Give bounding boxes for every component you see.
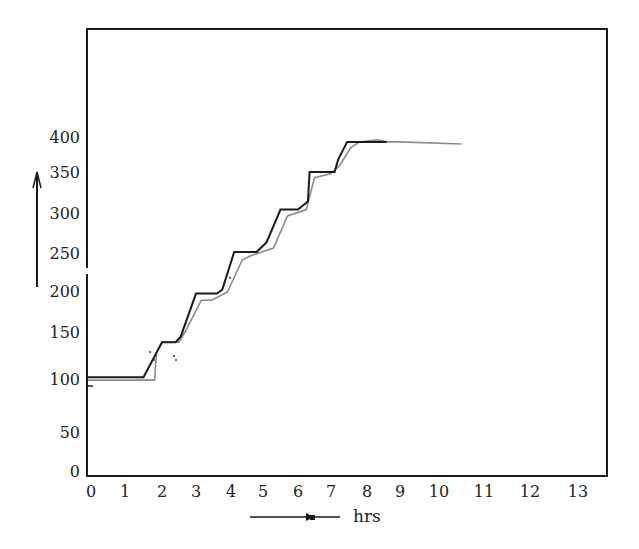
x-tick-label: 13 (568, 482, 588, 501)
series-line (88, 140, 462, 380)
x-tick-label: 0 (86, 482, 96, 501)
x-tick-label: 11 (474, 482, 494, 501)
y-tick-label: 50 (60, 423, 80, 442)
y-tick-label: 200 (49, 282, 80, 301)
y-tick-label: 400 (49, 128, 80, 147)
data-point-marker (153, 359, 155, 361)
y-tick-label: 150 (49, 323, 80, 342)
x-axis-arrow-icon (250, 513, 340, 521)
chart: 012345678910111213 400350300250200150100… (0, 0, 639, 549)
y-tick-label: 250 (49, 244, 80, 263)
x-tick-label: 12 (520, 482, 540, 501)
axis-break (85, 268, 89, 274)
data-point-marker (149, 351, 151, 353)
data-point-marker (173, 355, 175, 357)
y-axis-arrow-icon (33, 172, 41, 287)
data-point-marker (175, 359, 177, 361)
x-tick-label: 3 (191, 482, 201, 501)
x-tick-label: 4 (226, 482, 236, 501)
x-tick-label: 2 (157, 482, 167, 501)
plot-frame (87, 29, 607, 476)
x-tick-label: 6 (293, 482, 303, 501)
x-tick-label: 10 (429, 482, 449, 501)
y-tick-label: 350 (49, 163, 80, 182)
y-tick-label: 0 (70, 462, 80, 481)
x-tick-label: 9 (395, 482, 405, 501)
x-tick-label: 8 (362, 482, 372, 501)
x-tick-label: 5 (258, 482, 268, 501)
x-axis-title: hrs (353, 506, 381, 526)
y-tick-label: 100 (49, 370, 80, 389)
x-tick-label: 1 (120, 482, 130, 501)
y-tick-label: 300 (49, 204, 80, 223)
x-tick-labels: 012345678910111213 (86, 482, 588, 501)
y-tick-labels: 400350300250200150100500 (49, 128, 80, 481)
series-layer (88, 140, 462, 380)
data-point-marker (229, 277, 231, 279)
x-tick-label: 7 (326, 482, 336, 501)
series-line (88, 142, 387, 377)
